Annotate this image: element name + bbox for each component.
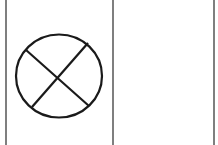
diagram-canvas xyxy=(0,0,218,145)
crossed-circle-icon xyxy=(16,35,102,118)
